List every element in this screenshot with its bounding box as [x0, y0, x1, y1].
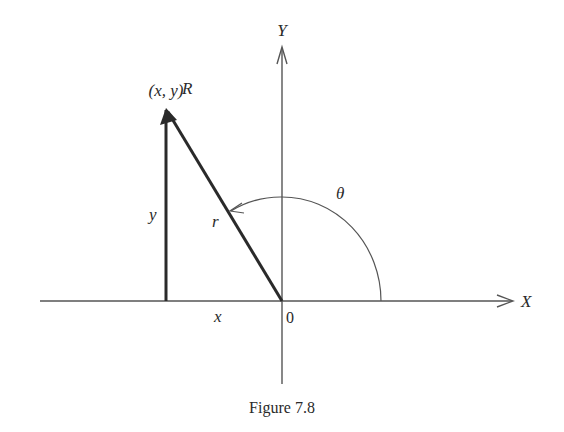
- angle-arc: [230, 197, 381, 301]
- vertical-leg-label: y: [147, 205, 157, 224]
- angle-label: θ: [336, 184, 344, 203]
- figure-caption: Figure 7.8: [249, 399, 315, 417]
- point-label: (x, y): [149, 81, 184, 100]
- origin-label: 0: [286, 309, 294, 326]
- radius-label: r: [212, 212, 219, 231]
- vector-label-visible: R: [181, 79, 193, 98]
- y-axis: [277, 47, 287, 384]
- horizontal-leg-label: x: [213, 307, 222, 326]
- polar-coordinates-diagram: Y X (x, y) R R r θ y x 0 Figure 7.8: [0, 0, 564, 432]
- y-axis-label: Y: [277, 21, 288, 40]
- x-axis: [40, 295, 513, 307]
- vector-r: [160, 108, 282, 301]
- x-axis-label: X: [520, 292, 532, 311]
